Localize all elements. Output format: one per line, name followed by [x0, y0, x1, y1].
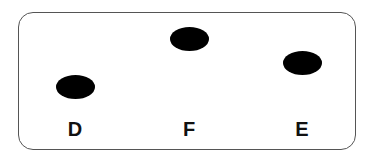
label-e: E — [282, 119, 322, 139]
point-f-ellipse — [170, 27, 209, 51]
point-d-ellipse — [56, 75, 95, 99]
label-d: D — [55, 119, 95, 139]
point-e-ellipse — [283, 51, 322, 75]
label-f: F — [169, 119, 209, 139]
